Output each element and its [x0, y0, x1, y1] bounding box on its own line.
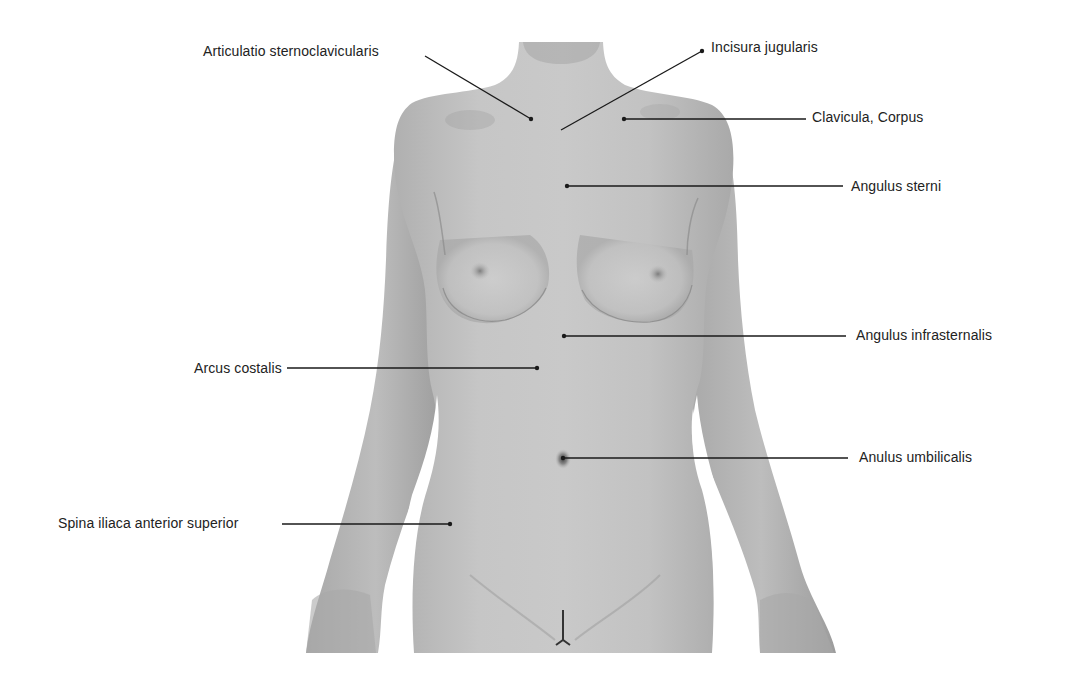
- right-shoulder-shade: [640, 104, 680, 120]
- point-dot-incisura-jugularis: [700, 49, 704, 53]
- label-angulus-sterni: Angulus sterni: [851, 178, 941, 194]
- label-spina-iliaca-anterior-superior: Spina iliaca anterior superior: [58, 515, 238, 531]
- point-dot-spina-iliaca-anterior-superior: [448, 522, 452, 526]
- left-hand: [306, 590, 376, 653]
- label-clavicula-corpus: Clavicula, Corpus: [812, 109, 923, 125]
- label-anulus-umbilicalis: Anulus umbilicalis: [859, 449, 972, 465]
- point-dot-anulus-umbilicalis: [561, 456, 565, 460]
- label-incisura-jugularis: Incisura jugularis: [711, 39, 818, 55]
- point-dot-angulus-infrasternalis: [562, 334, 566, 338]
- label-angulus-infrasternalis: Angulus infrasternalis: [856, 327, 992, 343]
- torso: [394, 42, 733, 653]
- point-dot-clavicula-corpus: [622, 117, 626, 121]
- point-dot-angulus-sterni: [565, 184, 569, 188]
- left-shoulder-shade: [445, 110, 495, 130]
- right-nipple: [648, 265, 668, 283]
- label-articulatio-sternoclavicularis: Articulatio sternoclavicularis: [203, 43, 379, 59]
- label-arcus-costalis: Arcus costalis: [194, 360, 282, 376]
- point-dot-arcus-costalis: [535, 366, 539, 370]
- left-nipple: [470, 262, 490, 280]
- anatomy-figure: [0, 0, 1070, 687]
- point-dot-articulatio-sternoclavicularis: [529, 117, 533, 121]
